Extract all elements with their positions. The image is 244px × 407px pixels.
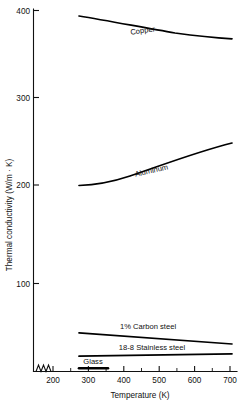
series-label-copper: Copper [130,24,156,36]
curve-copper [79,16,232,39]
x-axis-break-icon [36,365,51,372]
curve-stainless-steel [79,354,232,356]
y-tick-label-400: 400 [16,7,30,16]
x-tick-label-200: 200 [46,376,60,385]
x-axis-tick-labels: 200 300 400 500 600 700 [46,376,237,385]
axis-lines [34,9,238,372]
chart-page: 400 300 200 100 200 300 400 500 [0,0,244,407]
y-tick-label-300: 300 [16,94,30,103]
series-curves [79,16,232,368]
series-labels: Copper Aluminum 1% Carbon steel 18-8 Sta… [83,24,185,366]
series-label-carbon-steel: 1% Carbon steel [120,322,176,331]
series-label-aluminum: Aluminum [134,162,169,178]
y-axis-tick-labels: 400 300 200 100 [16,7,30,289]
thermal-conductivity-chart: 400 300 200 100 200 300 400 500 [0,0,244,407]
x-axis-title: Temperature (K) [110,391,169,400]
x-tick-label-300: 300 [82,376,96,385]
x-tick-label-600: 600 [188,376,202,385]
y-tick-label-100: 100 [16,280,30,289]
series-label-glass: Glass [83,357,103,366]
y-axis-title: Thermal conductivity (W/m · K) [5,159,14,272]
x-tick-label-700: 700 [223,376,237,385]
y-tick-label-200: 200 [16,181,30,190]
x-tick-label-500: 500 [152,376,166,385]
series-label-stainless-steel: 18-8 Stainless steel [119,343,186,352]
y-axis-ticks [34,11,40,284]
x-tick-label-400: 400 [117,376,131,385]
